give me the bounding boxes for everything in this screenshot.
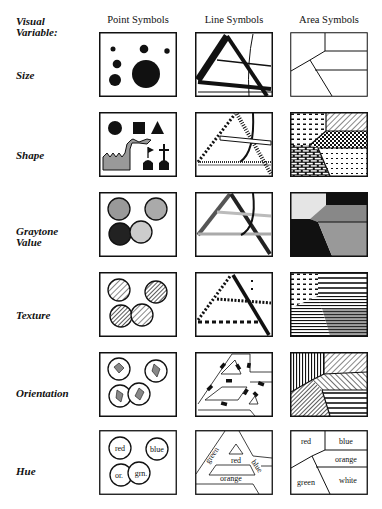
orientation-line-panel [195, 352, 273, 417]
graytone-area-panel [290, 192, 368, 257]
shape-area-panel [290, 112, 368, 177]
hue-area-green: green [297, 478, 315, 487]
column-header-area: Area Symbols [284, 14, 374, 25]
hue-point-green: grn. [135, 469, 148, 478]
hue-area-orange: orange [335, 455, 357, 464]
texture-area-panel [290, 272, 368, 337]
visual-variable-heading: Visual Variable: [16, 16, 58, 38]
shape-line-panel [195, 112, 273, 177]
hue-area-red: red [301, 437, 311, 446]
row-label-orientation: Orientation [16, 388, 69, 399]
row-label-size: Size [16, 70, 34, 81]
orientation-area-panel [290, 352, 368, 417]
row-label-graytone: GraytoneValue [16, 226, 58, 248]
hue-point-blue: blue [150, 445, 164, 454]
hue-area-blue: blue [339, 437, 353, 446]
hue-point-orange: or. [115, 471, 123, 480]
size-line-panel [195, 32, 273, 97]
column-header-line: Line Symbols [189, 14, 279, 25]
graytone-line-panel [195, 192, 273, 257]
heading-line-2: Variable: [16, 27, 58, 38]
row-label-hue: Hue [16, 466, 36, 477]
column-header-point: Point Symbols [93, 14, 183, 25]
label-text: Orientation [16, 388, 69, 399]
label-text: Hue [16, 466, 36, 477]
texture-point-panel [99, 272, 177, 337]
texture-line-panel [195, 272, 273, 337]
orientation-point-panel [99, 352, 177, 417]
size-area-panel [290, 32, 368, 97]
hue-line-panel: green red blue orange [195, 430, 273, 495]
shape-point-panel [99, 112, 177, 177]
hue-line-orange: orange [220, 474, 242, 483]
label-text: Texture [16, 310, 50, 321]
hue-point-panel: red blue or. grn. [99, 430, 177, 495]
row-label-texture: Texture [16, 310, 50, 321]
label-text: Shape [16, 150, 44, 161]
hue-point-red: red [115, 444, 125, 453]
hue-area-panel: red blue orange green white [290, 430, 368, 495]
hue-area-white: white [339, 476, 357, 485]
size-point-panel [99, 32, 177, 97]
label-text: Value [16, 237, 58, 248]
graytone-point-panel [99, 192, 177, 257]
row-label-shape: Shape [16, 150, 44, 161]
hue-line-red: red [231, 456, 241, 465]
label-text: Size [16, 70, 34, 81]
